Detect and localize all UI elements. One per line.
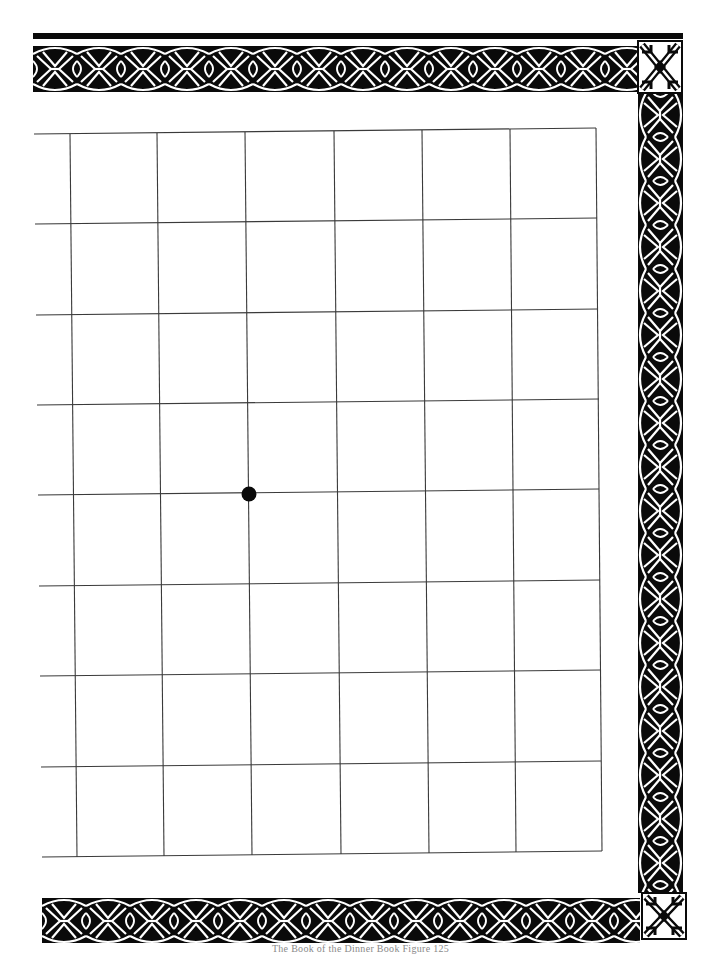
center-dot-marker	[242, 487, 257, 502]
top-knot-band	[33, 46, 638, 92]
knotwork-pattern-icon	[638, 93, 683, 893]
knotwork-pattern-icon	[33, 46, 638, 92]
drawing-grid	[0, 0, 721, 957]
grid-right-edge	[596, 128, 602, 851]
grid-lines	[0, 0, 721, 957]
knotwork-pattern-icon	[42, 898, 640, 943]
page-footer-caption: The Book of the Dinner Book Figure 125	[0, 943, 721, 954]
bottom-knot-band	[42, 898, 640, 943]
top-rule	[33, 33, 683, 39]
right-knot-band	[638, 93, 683, 893]
grid-top-edge	[34, 128, 596, 134]
corner-knot-top-right	[637, 40, 683, 94]
square-knot-icon	[639, 42, 681, 92]
grid-bottom-edge	[42, 851, 602, 857]
corner-knot-bottom-right	[641, 892, 687, 940]
square-knot-icon	[643, 894, 685, 938]
